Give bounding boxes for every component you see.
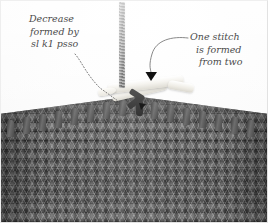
decrease-stitch-loop	[136, 100, 143, 116]
stitch-loop	[231, 117, 238, 134]
stitch-loop	[71, 108, 78, 125]
stitch-loop	[119, 99, 126, 116]
stitch-loop	[247, 120, 254, 137]
one-stitch-label-line-1: One stitch	[190, 31, 242, 44]
stitch-loop	[167, 105, 174, 122]
stitch-loop	[183, 108, 190, 125]
stitch-loop	[199, 111, 206, 128]
stitch-loop	[55, 111, 62, 128]
decrease-label-line-2: formed by	[29, 26, 79, 39]
stitch-loop	[23, 117, 30, 134]
stitch-loop	[215, 114, 222, 131]
stitch-loop	[7, 120, 14, 137]
stitch-loop	[151, 102, 158, 119]
one-stitch-label: One stitch is formed from two	[190, 31, 242, 69]
stitch-loop	[103, 102, 110, 119]
one-stitch-label-line-3: from two	[190, 56, 242, 69]
working-yarn	[119, 2, 125, 88]
decrease-label: Decrease formed by sl k1 psso	[29, 13, 79, 51]
stitch-loop	[87, 105, 94, 122]
one-stitch-label-line-2: is formed	[190, 44, 242, 57]
knitting-decrease-figure: Decrease formed by sl k1 psso One stitch…	[0, 0, 268, 223]
stitch-loop	[39, 114, 46, 131]
decrease-label-line-1: Decrease	[29, 13, 79, 26]
decrease-label-line-3: sl k1 psso	[29, 38, 79, 51]
